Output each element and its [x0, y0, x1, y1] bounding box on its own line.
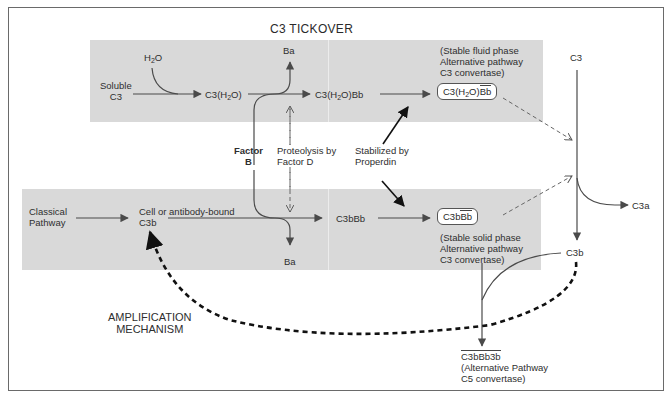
c3bbb-label: C3bBb: [336, 213, 365, 224]
solid-phase-convertase: C3bC3aBb: [437, 208, 478, 225]
amplification-mechanism-label: AMPLIFICATION MECHANISM: [108, 311, 192, 335]
classical-pathway-label: Classical Pathway: [29, 206, 67, 228]
c3h2obb-label: C3(H2O)Bb: [315, 89, 363, 100]
ba-top-label: Ba: [283, 45, 295, 56]
ba-bottom-label: Ba: [284, 256, 296, 267]
h2o-label: H2O: [144, 52, 162, 63]
soluble-c3-label: Soluble C3: [100, 80, 132, 102]
diagram-title: C3 TICKOVER: [270, 22, 353, 36]
fluid-phase-note: (Stable fluid phase Alternative pathway …: [440, 45, 523, 78]
fluid-phase-convertase: C3(H2O)Bb: [437, 83, 497, 100]
c5-convertase: C3bBb3b (Alternative Pathway C5 converta…: [461, 350, 548, 384]
c3a-label: C3a: [632, 200, 649, 211]
c3-label: C3: [570, 52, 582, 63]
c3h2o-label: C3(H2O): [205, 89, 242, 100]
factor-b-label: Factor B: [234, 145, 263, 167]
stabilized-label: Stabilized by Properdin: [355, 145, 409, 167]
c5-convertase-name: C3bBb3b: [461, 350, 501, 362]
proteolysis-label: Proteolysis by Factor D: [277, 145, 336, 167]
c3b-label: C3b: [566, 247, 583, 258]
solid-phase-note: (Stable solid phase Alternative pathway …: [440, 232, 523, 265]
cell-bound-c3b-label: Cell or antibody-bound C3b: [139, 206, 235, 228]
